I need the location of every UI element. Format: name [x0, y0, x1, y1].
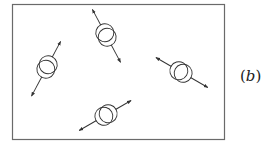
- ring-icon: [34, 57, 58, 81]
- molecule-right: [151, 50, 212, 96]
- ring-icon: [92, 104, 117, 129]
- arrow-icon: [191, 78, 208, 88]
- diagram-frame: [13, 5, 225, 140]
- arrow-icon: [32, 77, 42, 96]
- ring-icon: [96, 101, 121, 126]
- molecule-top: [84, 5, 128, 66]
- ring-icon: [36, 53, 60, 77]
- arrow-icon: [92, 9, 100, 25]
- arrow-icon: [52, 41, 60, 57]
- ring-icon: [171, 61, 196, 86]
- ring-icon: [167, 58, 192, 83]
- molecule-bottom: [75, 93, 136, 139]
- arrow-icon: [156, 58, 172, 67]
- arrow-icon: [79, 121, 96, 131]
- arrow-icon: [116, 101, 132, 110]
- arrow-icon: [111, 45, 120, 63]
- panel-label: (b): [240, 67, 261, 85]
- ring-icon: [93, 21, 117, 45]
- diagram-canvas: [0, 0, 278, 147]
- ring-icon: [95, 25, 119, 49]
- molecule-left: [24, 37, 69, 100]
